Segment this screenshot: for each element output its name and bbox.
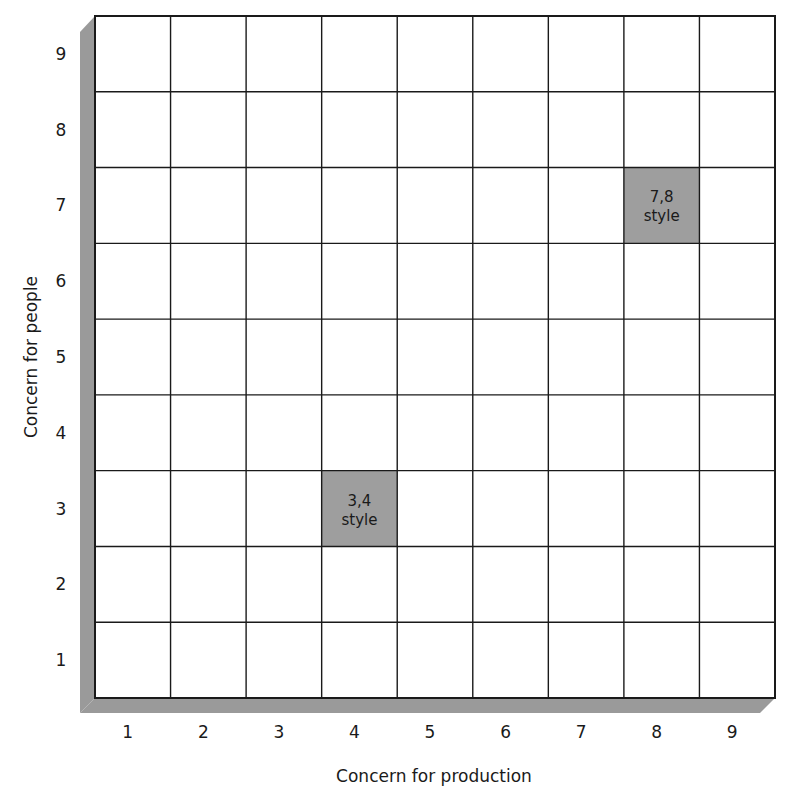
grid-shadow-left (80, 16, 95, 713)
y-tick-label: 9 (56, 44, 67, 64)
highlight-style-label: style (644, 207, 680, 225)
x-axis-title: Concern for production (336, 766, 532, 786)
x-tick-label: 7 (576, 722, 587, 742)
y-axis-ticks: 123456789 (56, 44, 67, 670)
y-tick-label: 7 (56, 195, 67, 215)
x-tick-label: 9 (727, 722, 738, 742)
grid-shadow-bottom (80, 698, 775, 713)
x-tick-label: 2 (198, 722, 209, 742)
y-tick-label: 2 (56, 574, 67, 594)
x-tick-label: 5 (425, 722, 436, 742)
x-tick-label: 4 (349, 722, 360, 742)
x-tick-label: 8 (651, 722, 662, 742)
y-tick-label: 3 (56, 499, 67, 519)
highlight-coords: 3,4 (348, 492, 372, 510)
y-tick-label: 5 (56, 347, 67, 367)
y-tick-label: 6 (56, 271, 67, 291)
x-axis-ticks: 123456789 (122, 722, 737, 742)
x-tick-label: 1 (122, 722, 133, 742)
y-axis-title: Concern for people (21, 276, 41, 438)
y-tick-label: 1 (56, 650, 67, 670)
highlight-coords: 7,8 (650, 188, 674, 206)
x-tick-label: 6 (500, 722, 511, 742)
x-tick-label: 3 (273, 722, 284, 742)
highlight-style-label: style (341, 511, 377, 529)
y-tick-label: 4 (56, 423, 67, 443)
managerial-grid-diagram: 3,4style7,8style 123456789 123456789 Con… (0, 0, 787, 801)
grid-frame (95, 16, 775, 698)
y-tick-label: 8 (56, 120, 67, 140)
grid-lines (95, 16, 775, 698)
